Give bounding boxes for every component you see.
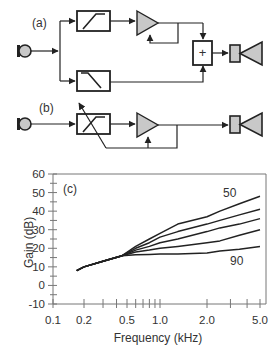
speaker-icon <box>230 113 262 136</box>
figure: (a) + <box>0 0 278 356</box>
speaker-icon <box>230 42 262 65</box>
x-axis-title: Frequency (kHz) <box>114 331 203 345</box>
adjustable-filter-block <box>77 114 110 134</box>
signal-line <box>110 66 203 82</box>
panel-b: (b) <box>17 101 262 148</box>
y-tick-label: 0 <box>39 279 45 291</box>
annotation-50: 50 <box>223 186 237 200</box>
panel-a-label: (a) <box>32 16 47 30</box>
panel-a: (a) + <box>17 11 262 91</box>
high-pass-filter-block <box>77 11 110 31</box>
x-tick-label: 5.0 <box>252 314 268 326</box>
plus-sign: + <box>199 45 207 60</box>
microphone-icon <box>17 118 31 130</box>
x-tick-label: 0.5 <box>119 314 135 326</box>
x-tick-label: 2.0 <box>199 314 215 326</box>
annotation-90: 90 <box>230 254 244 268</box>
microphone-icon <box>17 45 31 57</box>
feedback-loop <box>150 23 178 43</box>
panel-c-chart: 6050403020100-10 0.10.20.51.02.05.0 (c) … <box>22 168 268 345</box>
amplifier-icon <box>137 113 158 137</box>
y-tick-label: 50 <box>32 187 45 199</box>
y-tick-label: 40 <box>32 205 45 217</box>
x-tick-label: 1.0 <box>152 314 168 326</box>
summing-junction: + <box>193 41 212 65</box>
amplifier-icon <box>137 11 158 35</box>
y-tick-label: 60 <box>32 168 45 180</box>
x-tick-label: 0.1 <box>45 314 61 326</box>
low-pass-filter-block <box>77 71 110 91</box>
y-tick-label: -10 <box>28 298 45 310</box>
x-tick-label: 0.2 <box>76 314 92 326</box>
panel-c-label: (c) <box>63 182 77 196</box>
panel-b-label: (b) <box>39 101 54 115</box>
x-axis: 0.10.20.51.02.05.0 <box>45 299 268 326</box>
y-axis-title: Gain (dB) <box>22 217 36 268</box>
